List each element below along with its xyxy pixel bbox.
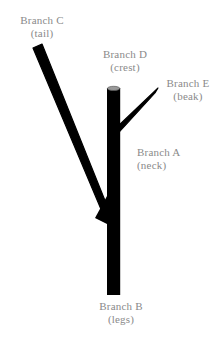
label-branch-e-part: (beak) [157,90,219,103]
label-branch-e-name: Branch E [157,77,219,90]
label-branch-b-name: Branch B [85,300,157,313]
label-branch-d-name: Branch D [90,48,160,61]
label-branch-b-part: (legs) [85,313,157,326]
label-branch-c-part: (tail) [8,27,76,40]
label-branch-c-name: Branch C [8,14,76,27]
main-trunk-shape [107,88,120,295]
label-branch-b: Branch B (legs) [85,300,157,326]
branch-diagram-figure: Branch C (tail) Branch D (crest) Branch … [0,0,219,348]
label-branch-a-part: (neck) [137,159,207,172]
label-branch-a-name: Branch A [137,146,207,159]
label-branch-e: Branch E (beak) [157,77,219,103]
label-branch-c: Branch C (tail) [8,14,76,40]
trunk-cut-end-icon [107,86,119,90]
label-branch-a: Branch A (neck) [137,146,207,172]
label-branch-d: Branch D (crest) [90,48,160,74]
label-branch-d-part: (crest) [90,61,160,74]
